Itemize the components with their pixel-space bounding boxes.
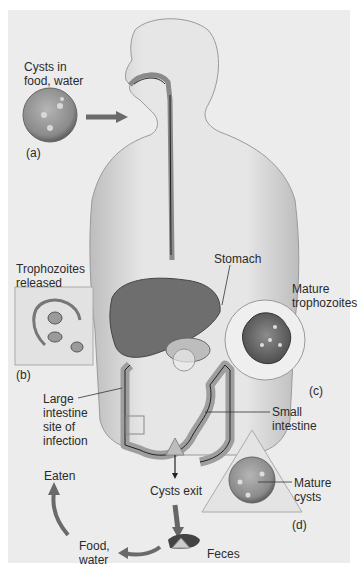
- tag-b: (b): [16, 368, 31, 382]
- label-eaten: Eaten: [44, 469, 75, 483]
- label-large-intestine: Large intestine site of infection: [43, 392, 88, 448]
- tag-d: (d): [292, 518, 307, 532]
- tag-c: (c): [309, 384, 323, 398]
- tag-a: (a): [26, 146, 41, 160]
- cyst-d: [229, 457, 275, 503]
- duodenum-bulb: [173, 349, 195, 371]
- label-stomach: Stomach: [214, 252, 261, 266]
- cyst-a: [23, 88, 77, 142]
- label-feces: Feces: [207, 547, 240, 561]
- label-cysts-exit: Cysts exit: [150, 484, 202, 498]
- label-trophozoites-released: Trophozoites released: [16, 262, 85, 290]
- food-water-arrow: [125, 547, 160, 555]
- label-cysts-in-food: Cysts in food, water: [24, 60, 83, 88]
- label-mature-cysts: Mature cysts: [294, 476, 360, 504]
- label-mature-trophozoites: Mature trophozoites: [292, 282, 357, 310]
- eaten-arrow: [53, 492, 68, 535]
- label-small-intestine: Small intestine: [272, 405, 317, 433]
- trophozoite-c: [243, 313, 291, 364]
- cysts-exit-arrow: [175, 505, 178, 530]
- label-food-water: Food, water: [79, 539, 110, 567]
